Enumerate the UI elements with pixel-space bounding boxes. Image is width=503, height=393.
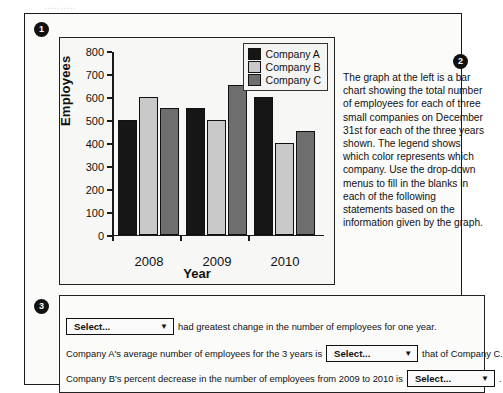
y-tick-label: 300 <box>86 162 104 173</box>
legend-item: Company A <box>248 48 321 60</box>
x-tick-label-2008: 2008 <box>114 254 184 269</box>
chevron-down-icon: ▼ <box>481 375 489 383</box>
description-text: The graph at the left is a bar chart sho… <box>343 71 485 229</box>
question-3-text-before: Company B's percent decrease in the numb… <box>66 373 403 384</box>
question-row-1: Select... ▼ had greatest change in the n… <box>66 318 480 335</box>
legend-item: Company C <box>248 74 321 86</box>
x-tick <box>112 235 114 241</box>
y-tick-label: 400 <box>86 139 104 150</box>
bar-company-a-2009 <box>186 108 205 235</box>
bar-company-c-2010 <box>296 131 315 235</box>
x-tick-label-2009: 2009 <box>182 254 252 269</box>
legend-label: Company A <box>266 49 320 60</box>
question-card: 1 Employees Year 01002003004005006007008… <box>24 13 462 385</box>
y-tick <box>107 189 112 191</box>
x-axis-line <box>112 235 324 237</box>
bar-company-c-2008 <box>160 108 179 235</box>
legend-label: Company B <box>266 62 321 73</box>
step-badge-3: 3 <box>34 299 49 314</box>
bar-company-a-2008 <box>118 120 137 235</box>
y-tick-label: 700 <box>86 70 104 81</box>
y-tick <box>107 212 112 214</box>
bar-group <box>118 53 186 235</box>
question-row-3: Company B's percent decrease in the numb… <box>66 370 480 387</box>
legend-swatch-icon <box>248 48 261 60</box>
question-3-text-after: . <box>499 373 502 384</box>
y-tick-label: 100 <box>86 208 104 219</box>
y-tick-label: 600 <box>86 93 104 104</box>
y-tick <box>107 97 112 99</box>
y-tick <box>107 120 112 122</box>
bar-chart-panel: Employees Year 0100200300400500600700800… <box>59 37 335 285</box>
y-tick-label: 200 <box>86 185 104 196</box>
y-axis-label: Employees <box>58 56 73 126</box>
y-tick <box>107 166 112 168</box>
chevron-down-icon: ▼ <box>404 350 412 358</box>
step-badge-2: 2 <box>453 54 468 69</box>
y-tick <box>107 51 112 53</box>
dropdown-2-value: Select... <box>334 348 370 359</box>
y-tick <box>107 74 112 76</box>
y-tick-label: 0 <box>98 231 104 242</box>
x-tick <box>180 235 182 241</box>
chart-legend: Company ACompany BCompany C <box>243 43 328 91</box>
y-tick-label: 800 <box>86 47 104 58</box>
legend-swatch-icon <box>248 74 261 86</box>
bar-company-c-2009 <box>228 85 247 235</box>
dropdown-3[interactable]: Select... ▼ <box>407 370 495 387</box>
x-tick <box>248 235 250 241</box>
chevron-down-icon: ▼ <box>160 323 168 331</box>
y-tick-label: 500 <box>86 116 104 127</box>
questions-panel: Select... ▼ had greatest change in the n… <box>59 295 485 393</box>
dropdown-1[interactable]: Select... ▼ <box>66 318 174 335</box>
legend-swatch-icon <box>248 61 261 73</box>
bar-company-b-2010 <box>275 143 294 235</box>
dropdown-1-value: Select... <box>74 321 110 332</box>
legend-item: Company B <box>248 61 321 73</box>
question-2-text-before: Company A's average number of employees … <box>66 348 322 359</box>
bar-company-b-2009 <box>207 120 226 235</box>
question-row-2: Company A's average number of employees … <box>66 345 480 362</box>
legend-label: Company C <box>266 75 321 86</box>
y-tick <box>107 143 112 145</box>
x-tick-label-2010: 2010 <box>250 254 320 269</box>
step-badge-1: 1 <box>34 22 49 37</box>
description-panel: 2 The graph at the left is a bar chart s… <box>343 37 485 285</box>
question-2-text-after: that of Company C. <box>422 348 503 359</box>
cut-off-text-line: .......... <box>0 0 487 11</box>
dropdown-3-value: Select... <box>415 373 451 384</box>
dropdown-2[interactable]: Select... ▼ <box>326 345 418 362</box>
question-1-text-after: had greatest change in the number of emp… <box>178 321 437 332</box>
bar-company-a-2010 <box>254 97 273 235</box>
bar-company-b-2008 <box>139 97 158 235</box>
